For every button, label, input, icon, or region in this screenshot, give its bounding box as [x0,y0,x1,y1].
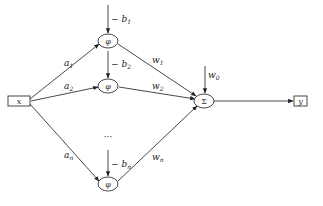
neural-network-diagram: x φ φ φ Σ y ··· a1 a2 an − b1 − b2 − bn … [0,0,323,206]
weight-wn: wn [152,152,164,163]
sum-node-label: Σ [201,97,207,106]
edge-x-to-phi-n [30,104,99,181]
phi-node-2-label: φ [105,82,111,91]
bias-bn: − bn [111,159,131,170]
weight-a2: a2 [64,81,73,92]
weight-a1: a1 [64,58,73,69]
weight-w2: w2 [152,81,164,92]
input-label: x [17,97,22,106]
output-label: y [297,97,303,106]
bias-b1: − b1 [111,14,131,25]
phi-node-n-label: φ [105,180,111,189]
weight-w1: w1 [152,55,164,66]
bias-b2: − b2 [111,59,131,70]
weight-an: an [64,150,73,161]
phi-node-1-label: φ [105,37,111,46]
weight-w0: w0 [208,70,220,81]
ellipsis: ··· [104,132,113,142]
